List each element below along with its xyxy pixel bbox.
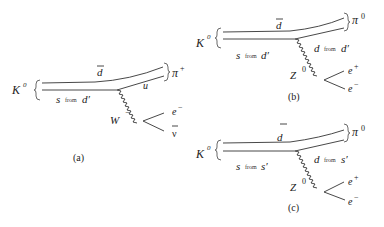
- electron-superscript: −: [354, 80, 359, 89]
- quark-line: [223, 28, 344, 39]
- kaon-label: K: [195, 147, 205, 161]
- positron-line: [324, 182, 344, 192]
- positron-superscript: +: [354, 62, 359, 71]
- feynman-diagrams: K 0 π + d u s from d′ W − e − ν (a) K: [0, 0, 384, 227]
- pion-bracket: [164, 63, 170, 81]
- kaon-label: K: [195, 36, 205, 50]
- z-label: Z: [290, 69, 297, 81]
- caption-b: (b): [288, 91, 300, 103]
- d-label: d: [314, 153, 320, 165]
- positron-label: e: [348, 65, 353, 76]
- electron-label: e: [172, 106, 177, 117]
- sprime-label: s′: [341, 153, 348, 165]
- electron-superscript: −: [178, 103, 183, 112]
- s-label: s: [236, 160, 240, 172]
- from-label: from: [245, 53, 257, 59]
- kaon-bracket: [215, 28, 221, 48]
- dprime-label: d′: [261, 49, 270, 61]
- from-label: from: [245, 164, 257, 170]
- from-label: from: [324, 46, 336, 52]
- kaon-bracket: [34, 80, 40, 100]
- neutrino-label: ν: [172, 128, 177, 139]
- positron-line: [324, 71, 344, 80]
- pion-bracket: [344, 13, 350, 31]
- caption-a: (a): [73, 152, 84, 164]
- diagram-a: K 0 π + d u s from d′ W − e − ν (a): [11, 63, 185, 164]
- positron-label: e: [348, 176, 353, 187]
- pion-label: π: [352, 13, 359, 27]
- diagram-b: K 0 π 0 d s from d′ d from d′ Z 0 e + e …: [195, 12, 365, 103]
- kaon-bracket: [215, 140, 221, 160]
- neutrino-line: [143, 121, 164, 131]
- from-label: from: [324, 157, 336, 163]
- pion-bracket: [344, 124, 350, 142]
- antiquark-line: [223, 18, 344, 32]
- kaon-label: K: [11, 83, 21, 97]
- pion-label: π: [172, 66, 179, 80]
- electron-line: [143, 113, 164, 121]
- diagram-c: K 0 π 0 d s from s′ d from s′ Z 0 e + e …: [195, 124, 365, 214]
- caption-c: (c): [288, 202, 299, 214]
- dprime-label: d′: [82, 93, 91, 105]
- electron-line: [324, 192, 345, 200]
- dprime-label: d′: [341, 42, 350, 54]
- electron-superscript: −: [354, 193, 359, 202]
- electron-label: e: [348, 83, 353, 94]
- w-superscript: −: [125, 107, 130, 117]
- from-label: from: [65, 97, 77, 103]
- electron-label: e: [348, 196, 353, 207]
- dbar-label: d: [276, 19, 282, 31]
- dbar-label: d: [277, 131, 283, 143]
- z-label: Z: [290, 181, 297, 193]
- kaon-superscript: 0: [207, 144, 211, 152]
- pion-superscript: 0: [361, 12, 365, 21]
- positron-superscript: +: [354, 173, 359, 182]
- w-label: W: [110, 114, 120, 126]
- pion-superscript: 0: [361, 124, 365, 133]
- z-superscript: 0: [302, 177, 306, 186]
- u-label: u: [143, 80, 148, 91]
- pion-superscript: +: [180, 64, 185, 73]
- z-superscript: 0: [302, 65, 306, 74]
- d-label: d: [314, 42, 320, 54]
- kaon-superscript: 0: [207, 33, 211, 41]
- kaon-superscript: 0: [23, 81, 27, 89]
- antiquark-line: [223, 130, 344, 143]
- sprime-label: s′: [261, 160, 268, 172]
- dbar-label: d: [97, 66, 103, 78]
- pion-label: π: [352, 125, 359, 139]
- s-label: s: [236, 49, 240, 61]
- s-label: s: [56, 93, 60, 105]
- electron-line: [324, 80, 345, 89]
